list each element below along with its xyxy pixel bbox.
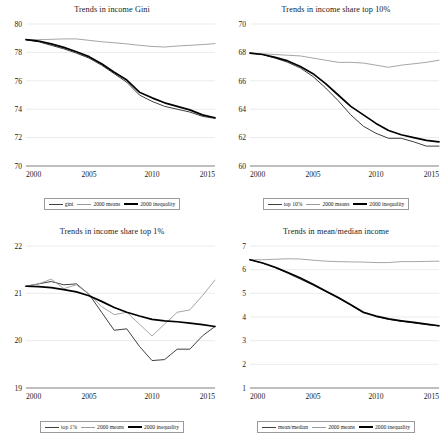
legend-label: 2000 inequality <box>369 200 404 208</box>
y-tick-label: 5 <box>242 289 246 298</box>
panel-income-share-top-10: Trends in income share top 10% 606264666… <box>224 0 448 222</box>
y-tick-label: 3 <box>242 336 246 345</box>
x-tick-label: 2010 <box>368 392 383 401</box>
y-tick-label: 60 <box>238 162 246 171</box>
y-tick-label: 76 <box>14 77 22 86</box>
chart-legend: top 10%2000 means2000 inequality <box>263 198 410 210</box>
legend-label: 2000 means <box>93 200 120 208</box>
panel-income-share-top-1: Trends in income share top 1% 1920212220… <box>0 222 224 445</box>
panel-mean-median-income: Trends in mean/median income 12345672000… <box>224 222 448 445</box>
y-tick-label: 74 <box>14 105 22 114</box>
x-tick-label: 2000 <box>250 392 265 401</box>
x-tick-label: 2000 <box>250 170 265 179</box>
y-tick-label: 72 <box>14 133 22 142</box>
x-tick-label: 2000 <box>26 392 41 401</box>
legend-label: mean/median <box>278 423 308 431</box>
legend-item[interactable]: 2000 inequality <box>124 200 175 208</box>
legend-label: top 10% <box>284 200 303 208</box>
x-tick-label: 2005 <box>305 170 320 179</box>
x-tick-label: 2015 <box>424 392 439 401</box>
x-tick-label: 2010 <box>144 392 159 401</box>
legend-label: top 1% <box>61 423 77 431</box>
legend-item[interactable]: 2000 inequality <box>353 200 404 208</box>
legend-item[interactable]: top 10% <box>268 200 303 208</box>
legend-label: gini <box>65 200 74 208</box>
legend-swatch-icon <box>262 427 276 428</box>
legend-swatch-icon <box>77 204 91 205</box>
legend-item[interactable]: top 1% <box>45 423 77 431</box>
series-line <box>250 53 439 142</box>
legend-label: 2000 inequality <box>140 200 175 208</box>
figure-grid: Trends in income Gini 707274767880200020… <box>0 0 448 445</box>
y-tick-label: 6 <box>242 265 246 274</box>
legend-swatch-icon <box>128 426 142 428</box>
legend-label: 2000 means <box>328 423 355 431</box>
panel-income-gini: Trends in income Gini 707274767880200020… <box>0 0 224 222</box>
series-line <box>250 259 439 263</box>
legend-swatch-icon <box>49 204 63 205</box>
y-tick-label: 64 <box>238 105 246 114</box>
y-tick-label: 68 <box>238 48 246 57</box>
legend-swatch-icon <box>124 203 138 205</box>
x-tick-label: 2005 <box>305 392 320 401</box>
x-tick-label: 2015 <box>200 170 215 179</box>
legend-label: 2000 inequality <box>375 423 410 431</box>
chart-legend: top 1%2000 means2000 inequality <box>40 421 184 433</box>
legend-item[interactable]: 2000 means <box>77 200 120 208</box>
legend-item[interactable]: 2000 inequality <box>128 423 179 431</box>
legend-label: 2000 means <box>97 423 124 431</box>
plot-area: 12345672000200520102015 <box>224 238 448 410</box>
y-tick-label: 20 <box>14 336 22 345</box>
legend-swatch-icon <box>268 204 282 205</box>
y-tick-label: 66 <box>238 77 246 86</box>
legend-swatch-icon <box>306 204 320 205</box>
series-line <box>26 286 215 326</box>
y-tick-label: 2 <box>242 360 246 369</box>
y-tick-label: 4 <box>242 313 246 322</box>
panel-title: Trends in income share top 10% <box>224 4 448 15</box>
y-tick-label: 70 <box>14 162 22 171</box>
x-tick-label: 2005 <box>81 392 96 401</box>
y-tick-label: 80 <box>14 20 22 29</box>
legend-item[interactable]: mean/median <box>262 423 308 431</box>
y-tick-label: 1 <box>242 384 246 393</box>
legend-item[interactable]: 2000 means <box>306 200 349 208</box>
legend-item[interactable]: 2000 means <box>312 423 355 431</box>
y-tick-label: 22 <box>14 242 22 251</box>
series-line <box>250 53 439 67</box>
legend-item[interactable]: gini <box>49 200 74 208</box>
y-tick-label: 19 <box>14 384 22 393</box>
legend-swatch-icon <box>81 427 95 428</box>
x-tick-label: 2010 <box>368 170 383 179</box>
x-tick-label: 2000 <box>26 170 41 179</box>
legend-label: 2000 means <box>322 200 349 208</box>
plot-area: 6062646668702000200520102015 <box>224 16 448 188</box>
legend-swatch-icon <box>353 203 367 205</box>
legend-swatch-icon <box>45 427 59 428</box>
chart-legend: mean/median2000 means2000 inequality <box>257 421 415 433</box>
plot-area: 192021222000200520102015 <box>0 238 224 410</box>
legend-wrap: mean/median2000 means2000 inequality <box>224 421 448 433</box>
panel-title: Trends in income share top 1% <box>0 226 224 237</box>
legend-swatch-icon <box>359 426 373 428</box>
y-tick-label: 62 <box>238 133 246 142</box>
legend-wrap: top 1%2000 means2000 inequality <box>0 421 224 433</box>
series-line <box>26 40 215 118</box>
panel-title: Trends in mean/median income <box>224 226 448 237</box>
series-line <box>26 40 215 119</box>
chart-legend: gini2000 means2000 inequality <box>44 198 181 210</box>
legend-item[interactable]: 2000 inequality <box>359 423 410 431</box>
y-tick-label: 78 <box>14 48 22 57</box>
plot-area: 7072747678802000200520102015 <box>0 16 224 188</box>
x-tick-label: 2015 <box>200 392 215 401</box>
legend-label: 2000 inequality <box>144 423 179 431</box>
y-tick-label: 70 <box>238 20 246 29</box>
y-tick-label: 21 <box>14 289 22 298</box>
x-tick-label: 2010 <box>144 170 159 179</box>
x-tick-label: 2005 <box>81 170 96 179</box>
panel-title: Trends in income Gini <box>0 4 224 15</box>
legend-wrap: top 10%2000 means2000 inequality <box>224 198 448 210</box>
legend-item[interactable]: 2000 means <box>81 423 124 431</box>
x-tick-label: 2015 <box>424 170 439 179</box>
legend-swatch-icon <box>312 427 326 428</box>
